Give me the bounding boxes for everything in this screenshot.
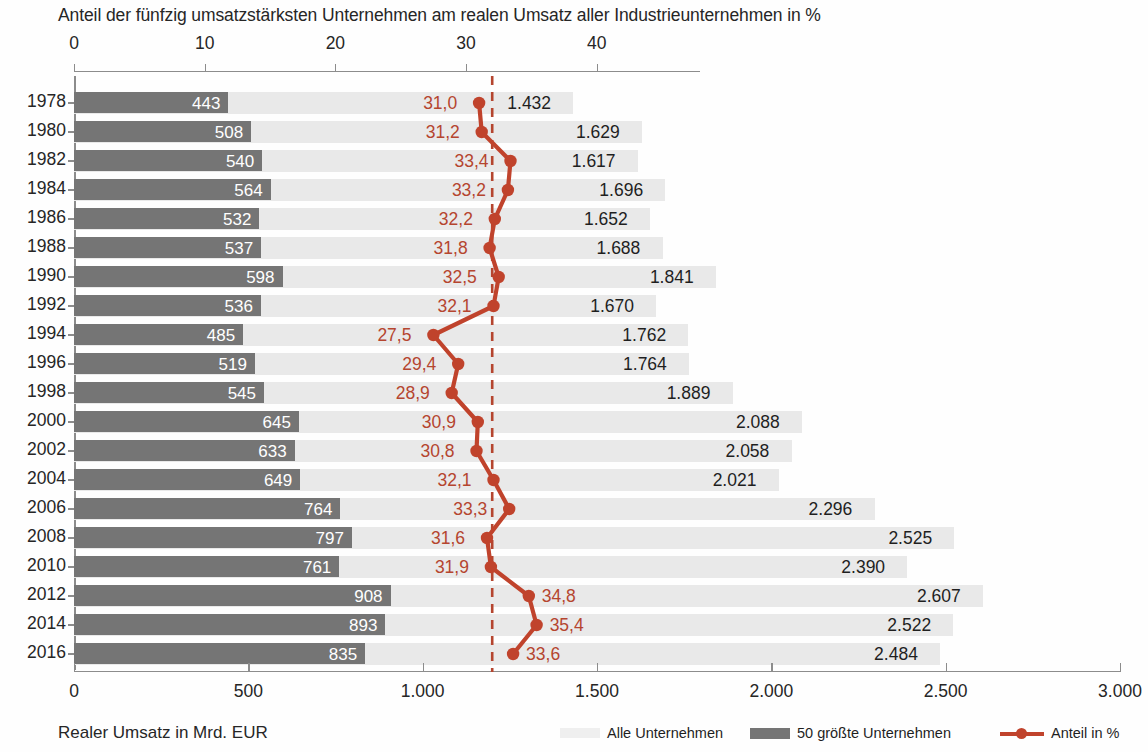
share-value-label: 31,9 bbox=[435, 557, 469, 578]
bar-label-top50: 764 bbox=[282, 500, 332, 520]
chart-row: 19865321.65232,2 bbox=[0, 204, 1148, 233]
chart-row: 19845641.69633,2 bbox=[0, 175, 1148, 204]
share-value-label: 34,8 bbox=[542, 586, 576, 607]
chart-row: 19825401.61733,4 bbox=[0, 146, 1148, 175]
red-line-swatch bbox=[1000, 728, 1044, 739]
bar-label-all-companies: 2.296 bbox=[809, 499, 853, 520]
year-axis-label: 1980 bbox=[27, 120, 66, 141]
chart-row: 19784431.43231,0 bbox=[0, 88, 1148, 117]
share-value-label: 28,9 bbox=[396, 383, 430, 404]
bar-label-top50: 564 bbox=[213, 181, 263, 201]
bottom-axis-tick bbox=[597, 663, 598, 672]
bar-label-all-companies: 2.484 bbox=[874, 644, 918, 665]
chart-row: 20006452.08830,9 bbox=[0, 407, 1148, 436]
year-axis-label: 1988 bbox=[27, 236, 66, 257]
share-value-label: 29,4 bbox=[402, 354, 436, 375]
chart-row: 20148932.52235,4 bbox=[0, 610, 1148, 639]
bar-label-top50: 598 bbox=[225, 268, 275, 288]
share-value-label: 31,0 bbox=[423, 93, 457, 114]
bottom-axis-tick-label: 1.500 bbox=[575, 681, 619, 702]
bottom-axis-tick bbox=[248, 663, 249, 672]
bar-label-top50: 537 bbox=[203, 239, 253, 259]
year-axis-label: 1990 bbox=[27, 265, 66, 286]
year-axis-label: 2008 bbox=[27, 526, 66, 547]
year-axis-label: 1998 bbox=[27, 381, 66, 402]
year-axis-label: 1992 bbox=[27, 294, 66, 315]
bar-label-all-companies: 2.607 bbox=[917, 586, 961, 607]
bar-label-top50: 797 bbox=[294, 529, 344, 549]
plot-area: 19784431.43231,019805081.62931,219825401… bbox=[0, 0, 1148, 752]
bar-label-all-companies: 2.088 bbox=[736, 412, 780, 433]
year-axis-label: 1984 bbox=[27, 178, 66, 199]
year-axis-label: 2006 bbox=[27, 497, 66, 518]
bottom-axis-tick-label: 500 bbox=[234, 681, 263, 702]
chart-row: 19805081.62931,2 bbox=[0, 117, 1148, 146]
year-axis-label: 2000 bbox=[27, 410, 66, 431]
share-value-label: 31,8 bbox=[434, 238, 468, 259]
share-value-label: 35,4 bbox=[550, 615, 584, 636]
chart-root: Anteil der fünfzig umsatzstärksten Unter… bbox=[0, 0, 1148, 752]
bar-label-all-companies: 2.058 bbox=[726, 441, 770, 462]
legend-item-share: Anteil in % bbox=[1000, 725, 1120, 741]
chart-row: 20129082.60734,8 bbox=[0, 581, 1148, 610]
share-value-label: 27,5 bbox=[377, 325, 411, 346]
chart-row: 20087972.52531,6 bbox=[0, 523, 1148, 552]
dark-bar-swatch bbox=[750, 728, 790, 739]
chart-row: 20168352.48433,6 bbox=[0, 639, 1148, 668]
bar-label-all-companies: 2.390 bbox=[841, 557, 885, 578]
bar-label-all-companies: 1.889 bbox=[667, 383, 711, 404]
legend-label-share: Anteil in % bbox=[1051, 725, 1120, 741]
chart-row: 19925361.67032,1 bbox=[0, 291, 1148, 320]
bar-label-all-companies: 1.652 bbox=[584, 209, 628, 230]
legend-label-all-companies: Alle Unternehmen bbox=[607, 725, 723, 741]
bottom-axis-tick bbox=[74, 663, 75, 672]
bottom-axis-tick-label: 2.500 bbox=[924, 681, 968, 702]
bottom-axis-tick-label: 3.000 bbox=[1098, 681, 1142, 702]
legend-item-all-companies: Alle Unternehmen bbox=[560, 725, 723, 741]
share-value-label: 31,2 bbox=[426, 122, 460, 143]
bar-label-all-companies: 1.670 bbox=[590, 296, 634, 317]
bottom-axis-tick-label: 1.000 bbox=[401, 681, 445, 702]
share-value-label: 32,2 bbox=[439, 209, 473, 230]
share-value-label: 32,1 bbox=[438, 296, 472, 317]
share-value-label: 32,5 bbox=[443, 267, 477, 288]
share-value-label: 33,2 bbox=[452, 180, 486, 201]
bar-label-top50: 519 bbox=[197, 355, 247, 375]
bottom-axis-tick bbox=[946, 663, 947, 672]
chart-row: 19944851.76227,5 bbox=[0, 320, 1148, 349]
bottom-axis-tick bbox=[423, 663, 424, 672]
bar-label-top50: 908 bbox=[333, 587, 383, 607]
bar-label-all-companies: 2.525 bbox=[888, 528, 932, 549]
share-value-label: 30,8 bbox=[421, 441, 455, 462]
bar-label-top50: 633 bbox=[237, 442, 287, 462]
chart-row: 19985451.88928,9 bbox=[0, 378, 1148, 407]
bar-label-all-companies: 2.522 bbox=[887, 615, 931, 636]
year-axis-label: 1994 bbox=[27, 323, 66, 344]
bar-label-top50: 443 bbox=[170, 94, 220, 114]
chart-row: 20107612.39031,9 bbox=[0, 552, 1148, 581]
bar-label-top50: 540 bbox=[204, 152, 254, 172]
bar-label-top50: 532 bbox=[201, 210, 251, 230]
bar-label-top50: 536 bbox=[203, 297, 253, 317]
bar-label-top50: 893 bbox=[327, 616, 377, 636]
bar-label-all-companies: 1.841 bbox=[650, 267, 694, 288]
light-bar-swatch bbox=[560, 728, 600, 738]
bar-label-all-companies: 1.432 bbox=[507, 93, 551, 114]
chart-row: 20046492.02132,1 bbox=[0, 465, 1148, 494]
year-axis-label: 2016 bbox=[27, 642, 66, 663]
bar-label-all-companies: 1.617 bbox=[572, 151, 616, 172]
bar-label-top50: 835 bbox=[307, 645, 357, 665]
chart-row: 20026332.05830,8 bbox=[0, 436, 1148, 465]
bottom-axis-tick bbox=[771, 663, 772, 672]
year-axis-label: 2002 bbox=[27, 439, 66, 460]
share-value-label: 33,3 bbox=[453, 499, 487, 520]
year-axis-label: 1982 bbox=[27, 149, 66, 170]
share-value-label: 30,9 bbox=[422, 412, 456, 433]
bar-label-top50: 645 bbox=[241, 413, 291, 433]
year-axis-label: 1986 bbox=[27, 207, 66, 228]
year-axis-label: 2012 bbox=[27, 584, 66, 605]
year-axis-label: 1996 bbox=[27, 352, 66, 373]
legend-item-top50: 50 größte Unternehmen bbox=[750, 725, 951, 741]
share-value-label: 33,6 bbox=[526, 644, 560, 665]
bar-label-top50: 545 bbox=[206, 384, 256, 404]
